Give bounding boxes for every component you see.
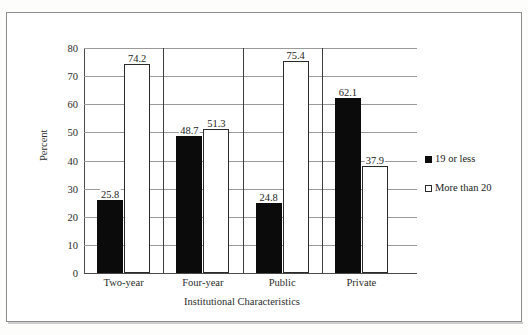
bar-value-label: 74.2: [127, 53, 147, 64]
y-tick-label: 30: [68, 184, 79, 195]
x-axis-title: Institutional Characteristics: [184, 296, 300, 307]
figure-frame: Percent 80706050403020100 25.874.248.751…: [6, 12, 522, 322]
plot-area: 80706050403020100 25.874.248.751.324.875…: [84, 48, 401, 273]
category-separator: [243, 48, 244, 273]
category-separator: [163, 48, 164, 273]
gridline: 0: [84, 273, 417, 274]
y-tick-label: 0: [73, 269, 78, 280]
bar-value-label: 62.1: [338, 87, 358, 98]
bar-dark: 48.7: [176, 136, 202, 273]
x-category-label: Private: [347, 277, 377, 288]
bar-value-label: 37.9: [365, 155, 385, 166]
bar-light: 75.4: [283, 61, 309, 273]
y-tick-label: 10: [68, 241, 79, 252]
y-tick-label: 50: [68, 128, 79, 139]
bar-value-label: 48.7: [179, 125, 199, 136]
bar-value-label: 25.8: [100, 189, 120, 200]
scanned-page: Percent 80706050403020100 25.874.248.751…: [0, 0, 528, 335]
legend-label: 19 or less: [435, 153, 475, 166]
y-tick-label: 70: [68, 72, 79, 83]
bar-light: 74.2: [124, 64, 150, 273]
y-tick-label: 60: [68, 100, 79, 111]
legend-item[interactable]: 19 or less: [425, 153, 517, 166]
x-category-label: Four-year: [182, 277, 223, 288]
chart-legend: 19 or lessMore than 20: [425, 153, 517, 211]
y-tick-label: 80: [68, 44, 79, 55]
filled-square-icon: [425, 156, 432, 163]
hollow-square-icon: [425, 185, 432, 192]
bar-light: 37.9: [362, 166, 388, 273]
x-category-label: Public: [269, 277, 296, 288]
y-tick-label: 40: [68, 156, 79, 167]
bar-chart: Percent 80706050403020100 25.874.248.751…: [7, 13, 523, 323]
bar-dark: 62.1: [335, 98, 361, 273]
y-tick-label: 20: [68, 213, 79, 224]
bar-value-label: 24.8: [258, 192, 278, 203]
bar-value-label: 51.3: [206, 118, 226, 129]
bar-dark: 24.8: [256, 203, 282, 273]
y-axis-title: Percent: [38, 130, 49, 162]
gridline: 80: [84, 48, 417, 49]
x-category-label: Two-year: [104, 277, 144, 288]
legend-item[interactable]: More than 20: [425, 182, 517, 195]
bar-light: 51.3: [203, 129, 229, 273]
legend-label: More than 20: [435, 182, 492, 195]
category-separator: [322, 48, 323, 273]
bar-dark: 25.8: [97, 200, 123, 273]
bar-value-label: 75.4: [285, 50, 305, 61]
